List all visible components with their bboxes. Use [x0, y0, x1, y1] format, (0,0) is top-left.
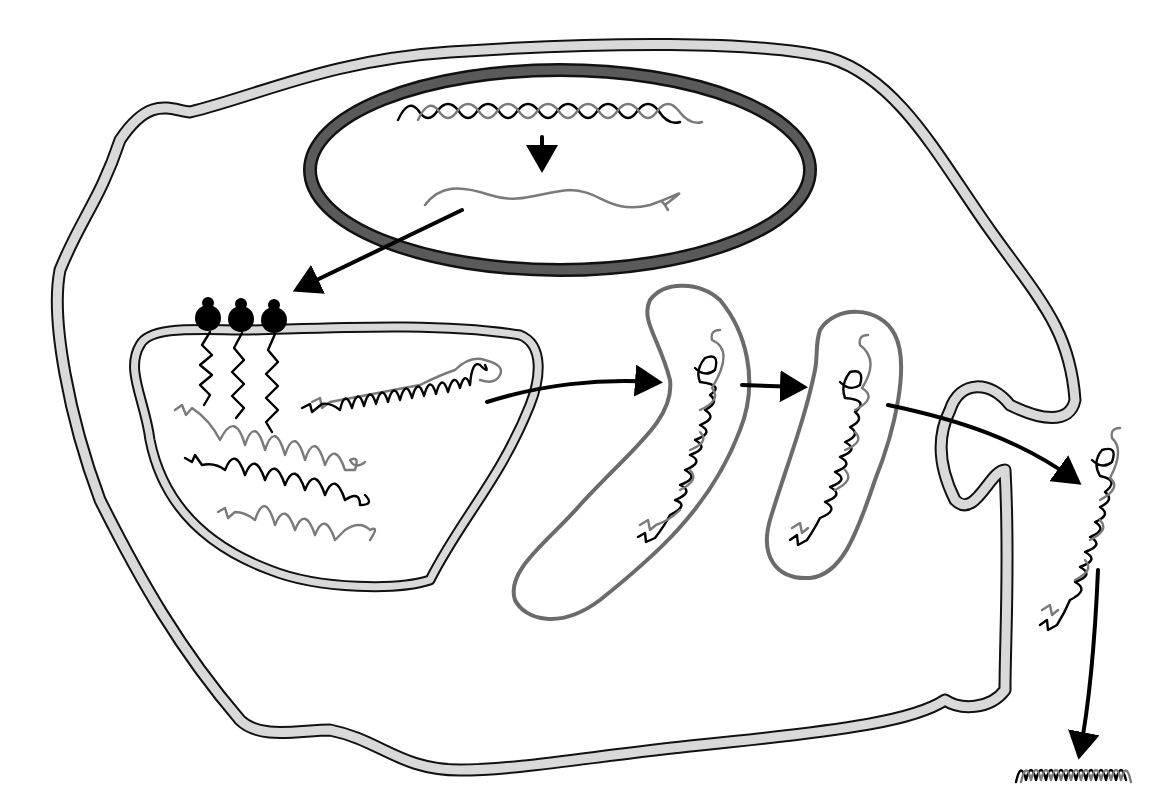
processing-arrow [1080, 570, 1098, 752]
golgi-transfer-arrow [742, 385, 800, 387]
er-to-golgi-arrow [487, 381, 655, 402]
golgi-cisterna-trans [767, 312, 901, 578]
collagen-triple-helix [1016, 770, 1131, 782]
ribosome-icon [195, 297, 221, 331]
ribosomes [195, 297, 287, 333]
nucleus [310, 70, 810, 270]
ribosome-icon [228, 298, 254, 332]
er-folding-chains [175, 359, 501, 540]
protein-secretion-diagram [0, 0, 1166, 811]
secreted-procollagen [1040, 428, 1120, 630]
golgi-cisterna-cis [514, 286, 750, 619]
nascent-polypeptide-chains [200, 332, 278, 432]
ribosome-icon [261, 299, 287, 333]
